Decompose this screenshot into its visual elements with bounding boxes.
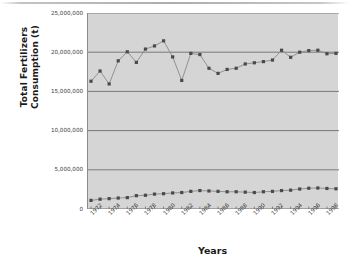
y-tick-label: 10,000,000	[23, 127, 83, 133]
y-tick-label: 15,000,000	[23, 88, 83, 94]
top-divider-rule	[0, 2, 349, 4]
fertilizer-consumption-chart: Total Fertilizers Consumption (t) 05,000…	[0, 0, 349, 269]
y-axis-title: Total Fertilizers Consumption (t)	[19, 7, 41, 127]
plot-area	[87, 13, 338, 209]
y-tick-label: 25,000,000	[23, 10, 83, 16]
y-tick-label: 5,000,000	[23, 166, 83, 172]
plot-svg	[88, 13, 339, 209]
y-tick-label: 20,000,000	[23, 49, 83, 55]
y-tick-label: 0	[23, 206, 83, 212]
x-axis-title: Years	[87, 245, 338, 256]
